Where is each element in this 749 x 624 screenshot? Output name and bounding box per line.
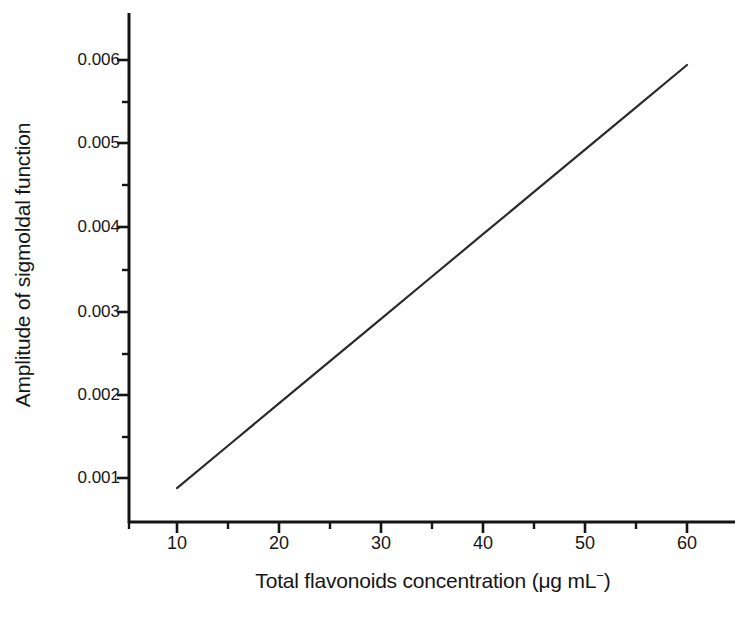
x-tick-label: 30 [351, 533, 411, 554]
x-axis-title: Total flavonoids concentration (μg mL−) [128, 568, 738, 593]
x-axis-title-close: ) [604, 569, 611, 592]
x-tick-label: 60 [657, 533, 717, 554]
y-tick-label: 0.005 [34, 133, 120, 153]
x-axis-title-main: Total flavonoids concentration (μg mL [255, 569, 596, 592]
x-axis-title-superscript: − [596, 568, 604, 583]
x-tick-label: 50 [555, 533, 615, 554]
y-axis-tick-labels: 0.001 0.002 0.003 0.004 0.005 0.006 [24, 0, 120, 624]
y-tick-label: 0.001 [34, 468, 120, 488]
chart-figure: Amplitude of sigmoldal function 0.001 0.… [0, 0, 749, 624]
y-tick-label: 0.006 [34, 50, 120, 70]
x-tick-label: 20 [249, 533, 309, 554]
y-tick-label: 0.003 [34, 302, 120, 322]
x-tick-label: 10 [147, 533, 207, 554]
data-line-calibration [177, 65, 687, 488]
x-axis-tick-labels: 10 20 30 40 50 60 [0, 533, 749, 563]
y-tick-label: 0.002 [34, 385, 120, 405]
x-tick-label: 40 [453, 533, 513, 554]
y-tick-label: 0.004 [34, 217, 120, 237]
